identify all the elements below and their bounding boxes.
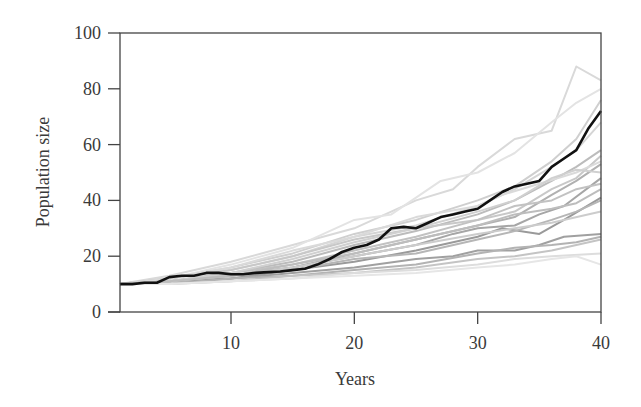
y-tick-label: 0	[92, 302, 101, 322]
y-axis-title: Population size	[33, 117, 53, 228]
x-axis-title: Years	[335, 369, 375, 389]
series-line-run-5	[120, 150, 601, 284]
x-axis: 10203040	[108, 312, 610, 353]
x-tick-label: 40	[592, 333, 610, 353]
y-tick-label: 100	[74, 23, 101, 43]
x-tick-label: 20	[345, 333, 363, 353]
population-chart: 020406080100 10203040 Population size Ye…	[0, 0, 641, 407]
y-tick-label: 40	[83, 190, 101, 210]
x-tick-label: 10	[222, 333, 240, 353]
gray-runs	[120, 67, 601, 285]
x-tick-label: 30	[469, 333, 487, 353]
y-tick-label: 20	[83, 246, 101, 266]
y-axis: 020406080100	[74, 23, 120, 322]
y-tick-label: 60	[83, 135, 101, 155]
y-tick-label: 80	[83, 79, 101, 99]
